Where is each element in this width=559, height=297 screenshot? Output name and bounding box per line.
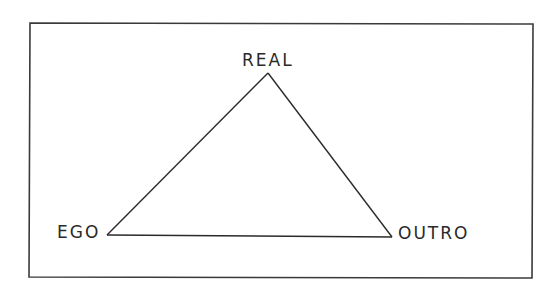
- edge-real-outro: [268, 73, 392, 237]
- node-label-outro: OUTRO: [398, 225, 469, 242]
- node-label-ego: EGO: [57, 224, 100, 241]
- node-label-real: REAL: [242, 52, 294, 69]
- diagram-canvas: [0, 0, 559, 297]
- edge-ego-real: [107, 73, 268, 235]
- edge-ego-outro: [107, 235, 392, 237]
